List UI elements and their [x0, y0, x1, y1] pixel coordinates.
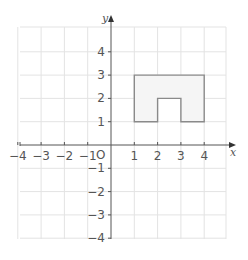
y-tick-label: 1 [97, 115, 105, 129]
polygon-shape [134, 75, 204, 122]
x-tick-label: −2 [56, 149, 74, 163]
y-tick-label: −2 [87, 185, 105, 199]
y-tick-label: −4 [87, 231, 105, 245]
grid [18, 27, 226, 239]
coordinate-plane: −4−3−2−112344321−1−2−3−4 x y O [0, 0, 248, 260]
x-tick-label: 4 [200, 149, 208, 163]
y-axis-label: y [101, 12, 109, 25]
y-axis-arrow-icon [108, 15, 114, 22]
y-tick-label: −1 [87, 161, 105, 175]
shape-layer [134, 75, 204, 122]
origin-label: O [96, 148, 105, 162]
x-tick-label: 2 [154, 149, 162, 163]
y-tick-label: −3 [87, 208, 105, 222]
x-tick-label: −4 [9, 149, 27, 163]
y-tick-label: 4 [97, 45, 105, 59]
x-tick-label: 3 [177, 149, 185, 163]
x-axis-label: x [230, 146, 237, 159]
x-tick-label: 1 [130, 149, 138, 163]
x-tick-label: −3 [32, 149, 50, 163]
axes [18, 15, 236, 239]
y-tick-label: 2 [97, 91, 105, 105]
y-tick-label: 3 [97, 68, 105, 82]
